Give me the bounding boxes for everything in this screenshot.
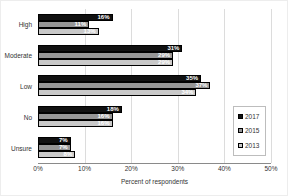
legend: 201720152013 bbox=[233, 106, 266, 156]
bar-2017-unsure: 7% bbox=[38, 137, 71, 144]
bar-value-label: 18% bbox=[107, 107, 121, 112]
bar-value-label: 13% bbox=[84, 29, 98, 34]
bar-value-label: 16% bbox=[98, 114, 112, 119]
x-axis-title: Percent of respondents bbox=[38, 178, 271, 185]
bar-value-label: 29% bbox=[158, 60, 172, 65]
legend-swatch-icon bbox=[238, 143, 243, 148]
bar-value-label: 37% bbox=[195, 83, 209, 88]
bar-value-label: 7% bbox=[59, 145, 70, 150]
legend-item-2015: 2015 bbox=[238, 127, 265, 134]
legend-label: 2017 bbox=[245, 113, 259, 120]
y-axis-category-labels: HighModerateLowNoUnsure bbox=[1, 9, 34, 163]
bar-value-label: 34% bbox=[181, 90, 195, 95]
bar-value-label: 7% bbox=[59, 138, 70, 143]
x-tick-label: 0% bbox=[33, 165, 42, 172]
bar-2017-moderate: 31% bbox=[38, 45, 182, 52]
bar-2015-high: 11% bbox=[38, 21, 89, 28]
bar-value-label: 35% bbox=[186, 76, 200, 81]
legend-swatch-icon bbox=[238, 128, 243, 133]
category-label-unsure: Unsure bbox=[11, 144, 32, 151]
gridline bbox=[271, 9, 272, 163]
legend-swatch-icon bbox=[238, 114, 243, 119]
bar-2017-high: 16% bbox=[38, 14, 113, 21]
bar-2015-no: 16% bbox=[38, 113, 113, 120]
legend-label: 2013 bbox=[245, 142, 259, 149]
bar-2013-unsure: 8% bbox=[38, 151, 75, 158]
x-tick-label: 10% bbox=[78, 165, 91, 172]
bar-group-high: 16%11%13% bbox=[38, 14, 271, 35]
bar-2017-no: 18% bbox=[38, 106, 122, 113]
bar-value-label: 8% bbox=[64, 152, 75, 157]
legend-label: 2015 bbox=[245, 127, 259, 134]
bar-value-label: 29% bbox=[158, 53, 172, 58]
x-tick-label: 30% bbox=[171, 165, 184, 172]
bar-2015-moderate: 29% bbox=[38, 52, 173, 59]
bar-2015-unsure: 7% bbox=[38, 144, 71, 151]
category-label-high: High bbox=[19, 21, 32, 28]
bar-2013-no: 16% bbox=[38, 120, 113, 127]
category-label-low: Low bbox=[20, 83, 32, 90]
category-label-no: No bbox=[24, 113, 32, 120]
bar-value-label: 16% bbox=[98, 15, 112, 20]
bar-value-label: 31% bbox=[167, 46, 181, 51]
bar-2015-low: 37% bbox=[38, 82, 210, 89]
legend-item-2013: 2013 bbox=[238, 142, 265, 149]
bar-2017-low: 35% bbox=[38, 75, 201, 82]
x-tick-label: 40% bbox=[218, 165, 231, 172]
legend-item-2017: 2017 bbox=[238, 113, 265, 120]
bar-group-moderate: 31%29%29% bbox=[38, 45, 271, 66]
bar-2013-high: 13% bbox=[38, 28, 99, 35]
bar-2013-moderate: 29% bbox=[38, 59, 173, 66]
bar-chart: 16%11%13%31%29%29%35%37%34%18%16%16%7%7%… bbox=[0, 0, 288, 196]
x-tick-label: 20% bbox=[125, 165, 138, 172]
bar-2013-low: 34% bbox=[38, 89, 196, 96]
x-axis-ticks: 0%10%20%30%40%50% bbox=[38, 165, 271, 173]
bar-group-low: 35%37%34% bbox=[38, 75, 271, 96]
x-tick-label: 50% bbox=[264, 165, 277, 172]
bar-value-label: 16% bbox=[98, 121, 112, 126]
category-label-moderate: Moderate bbox=[5, 52, 32, 59]
bar-value-label: 11% bbox=[75, 22, 89, 27]
